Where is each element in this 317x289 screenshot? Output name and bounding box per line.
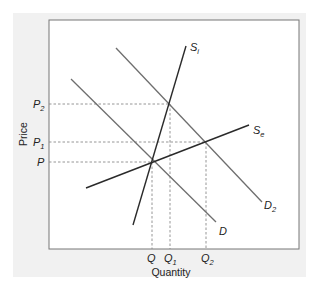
- price-label-p1: P1: [33, 136, 45, 151]
- quantity-label-q2: Q2: [201, 252, 215, 267]
- demand-label: D: [219, 225, 227, 237]
- y-axis-title: Price: [17, 122, 29, 146]
- quantity-label-q1: Q1: [164, 252, 177, 267]
- quantity-label-q: Q: [147, 252, 156, 264]
- supply-demand-diagram: Si Se D D2 P2 P1 P Q Q1 Q2 Quantity Pric…: [0, 0, 317, 289]
- x-axis-title: Quantity: [151, 266, 191, 278]
- price-label-p: P: [37, 156, 45, 168]
- price-label-p2: P2: [33, 98, 45, 113]
